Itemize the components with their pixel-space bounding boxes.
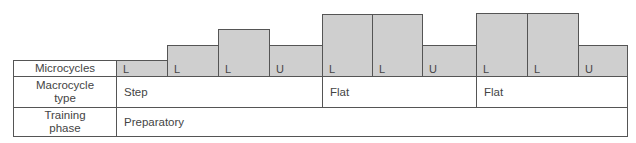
microcycle-label: L [483, 63, 489, 75]
microcycle-bar-9: L [527, 13, 579, 77]
microcycle-label: L [534, 63, 540, 75]
microcycle-label: U [276, 63, 284, 75]
row-header-macrocycle-type-label: Macrocycle type [30, 79, 100, 105]
microcycle-bar-7: U [422, 45, 477, 77]
microcycle-label: L [123, 63, 129, 75]
microcycle-bar-6: L [372, 14, 423, 77]
row-header-macrocycle-type: Macrocycle type [13, 76, 117, 108]
microcycle-label: U [585, 63, 593, 75]
macrocycle-label: Flat [330, 86, 349, 98]
macrocycle-cell-flat-2: Flat [476, 76, 628, 108]
macrocycle-cell-step: Step [116, 76, 323, 108]
row-header-training-phase-label: Training phase [35, 109, 95, 135]
microcycle-bar-5: L [322, 14, 373, 77]
microcycle-bar-2: L [167, 45, 219, 77]
microcycle-bar-4: U [269, 45, 323, 77]
macrocycle-label: Flat [484, 86, 503, 98]
microcycle-label: L [174, 63, 180, 75]
row-header-microcycles-label: Microcycles [35, 62, 95, 75]
row-header-microcycles: Microcycles [13, 60, 117, 77]
macrocycle-cell-flat-1: Flat [322, 76, 477, 108]
microcycle-bar-1: L [116, 60, 168, 77]
microcycle-label: U [429, 63, 437, 75]
microcycle-bar-10: U [578, 45, 628, 77]
training-phase-cell: Preparatory [116, 107, 628, 137]
row-header-training-phase: Training phase [13, 107, 117, 137]
training-phase-label: Preparatory [124, 116, 184, 128]
macrocycle-label: Step [124, 86, 148, 98]
microcycle-label: L [329, 63, 335, 75]
microcycle-label: L [225, 63, 231, 75]
microcycle-label: L [379, 63, 385, 75]
microcycle-bar-3: L [218, 29, 270, 77]
microcycle-bar-8: L [476, 13, 528, 77]
